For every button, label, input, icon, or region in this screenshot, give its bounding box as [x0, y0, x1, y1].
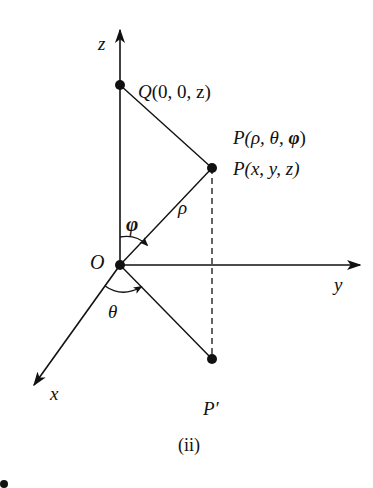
- spherical-coordinates-figure: [0, 0, 373, 488]
- z-axis-label: z: [98, 34, 105, 53]
- point-q-coords: (0, 0, z): [152, 81, 211, 102]
- point-p-name: P: [233, 127, 245, 148]
- point-p: [207, 163, 217, 173]
- segment-o-pprime: [120, 265, 212, 359]
- point-p-spherical-args: (ρ, θ,: [245, 127, 289, 148]
- point-p-cartesian-args: (x, y, z): [245, 158, 300, 179]
- y-axis-label: y: [334, 275, 342, 294]
- origin-label: O: [90, 252, 104, 272]
- point-q-label: Q(0, 0, z): [138, 82, 211, 101]
- origin-point: [115, 260, 125, 270]
- theta-angle-label: θ: [108, 302, 117, 321]
- point-p-spherical-label: P(ρ, θ, φ): [233, 128, 306, 147]
- point-p-prime: [207, 354, 217, 364]
- rho-label: ρ: [178, 198, 187, 217]
- point-p-prime-label: P′: [203, 399, 219, 418]
- theta-angle-arc: [105, 286, 141, 292]
- point-p-cartesian-name: P: [233, 158, 245, 179]
- x-axis: [34, 265, 120, 385]
- figure-caption: (ii): [178, 436, 200, 454]
- point-q-name: Q: [138, 81, 152, 102]
- point-q: [115, 80, 125, 90]
- point-p-spherical-phi: φ: [288, 127, 299, 148]
- point-p-spherical-close: ): [300, 127, 306, 148]
- phi-angle-label: φ: [126, 214, 138, 235]
- point-p-cartesian-label: P(x, y, z): [233, 159, 299, 178]
- x-axis-label: x: [50, 384, 58, 403]
- corner-mark: [0, 480, 8, 488]
